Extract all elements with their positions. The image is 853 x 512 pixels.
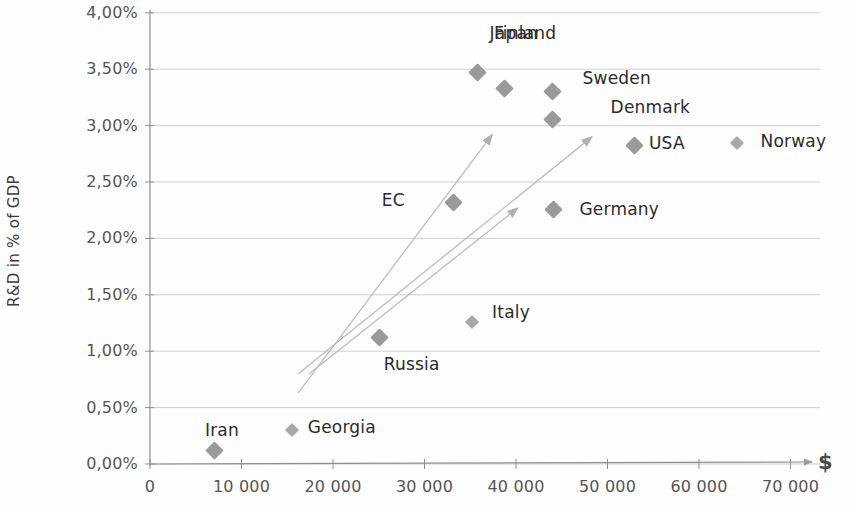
gridlines xyxy=(150,13,820,464)
data-point-label: USA xyxy=(649,133,685,153)
data-point-label: Russia xyxy=(384,354,440,374)
data-point-label: Denmark xyxy=(611,97,691,117)
y-tick-label: 3,50% xyxy=(52,59,138,78)
data-point-label: EC xyxy=(382,190,405,210)
y-tick-label: 4,00% xyxy=(52,3,138,22)
x-tick-label: 70 000 xyxy=(731,477,851,496)
data-point-label: Finland xyxy=(494,23,556,43)
trend-arrows xyxy=(298,135,592,393)
data-point-label: Georgia xyxy=(308,417,376,437)
x-axis-title: $ xyxy=(818,450,833,474)
data-point-label: Italy xyxy=(492,302,530,322)
data-point-label: Germany xyxy=(580,199,660,219)
data-point-label: Sweden xyxy=(583,68,651,88)
y-tick-label: 3,00% xyxy=(52,116,138,135)
y-tick-label: 2,00% xyxy=(52,228,138,247)
scatter-chart: 0,00%0,50%1,00%1,50%2,00%2,50%3,00%3,50%… xyxy=(0,0,853,512)
data-point-label: Iran xyxy=(205,420,239,440)
y-axis-title: R&D in % of GDP xyxy=(5,141,23,341)
y-tick-label: 0,00% xyxy=(52,454,138,473)
data-point-label: Norway xyxy=(761,131,827,151)
y-tick-label: 2,50% xyxy=(52,172,138,191)
y-tick-label: 1,00% xyxy=(52,341,138,360)
y-tick-label: 1,50% xyxy=(52,285,138,304)
y-tick-label: 0,50% xyxy=(52,398,138,417)
x-axis-ticks xyxy=(145,13,791,469)
